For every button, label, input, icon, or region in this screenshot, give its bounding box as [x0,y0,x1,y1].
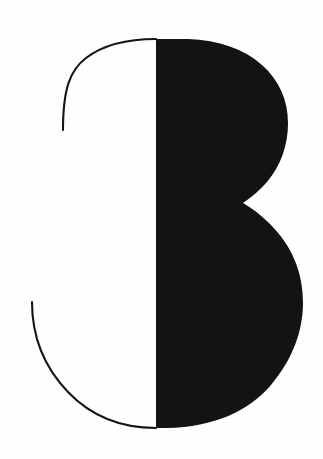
glyph-solid-half [156,39,303,428]
glyph-lower-hairline-contour [32,302,156,428]
glyph-upper-hairline-contour [63,39,156,130]
letter-b-glyph: Letter B Large display letterform B, spl… [0,0,323,459]
glyph-artwork-canvas: Letter B Large display letterform B, spl… [0,0,323,459]
